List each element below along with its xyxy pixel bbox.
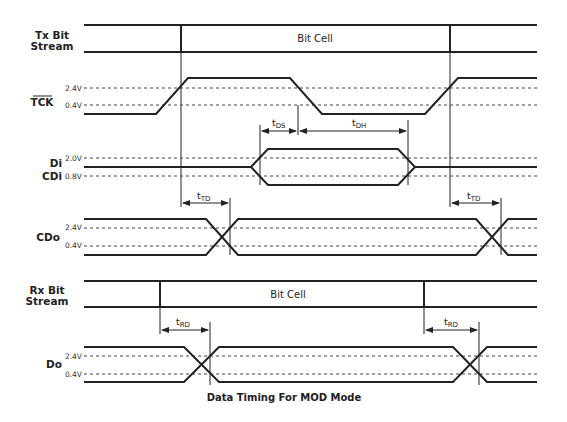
tdh-label: tDH [352, 117, 366, 130]
cdi-label: CDi [42, 170, 62, 182]
tds-label: tDS [272, 117, 286, 130]
do-label: Do [46, 358, 62, 370]
di-cdi-signal: Di CDi 2.0V 0.8V [42, 149, 537, 185]
cdo-level-high: 2.4V [65, 223, 83, 232]
di-level-low: 0.8V [65, 172, 83, 181]
do-signal: Do 2.4V 0.4V [46, 347, 537, 382]
tck-level-low: 0.4V [65, 101, 83, 110]
tck-level-high: 2.4V [65, 84, 83, 93]
cdo-signal: CDo 2.4V 0.4V [36, 219, 537, 255]
di-level-high: 2.0V [65, 154, 83, 163]
ttd2-label: tTD [467, 190, 480, 203]
do-level-low: 0.4V [65, 370, 83, 379]
trd2-label: tRD [444, 316, 458, 329]
timing-diagram: Tx Bit Stream Bit Cell TCK 2.4V 0.4V tDS… [0, 0, 567, 422]
trd1-label: tRD [176, 316, 190, 329]
rx-label-line2: Stream [26, 295, 69, 307]
ttd-annotations: tTD tTD [183, 190, 501, 255]
do-level-high: 2.4V [65, 352, 83, 361]
tx-label-line2: Stream [31, 40, 74, 52]
ttd1-label: tTD [197, 190, 210, 203]
rx-bit-cell-label: Bit Cell [270, 289, 305, 300]
diagram-caption: Data Timing For MOD Mode [207, 392, 362, 403]
rx-bit-stream-signal: Rx Bit Stream Bit Cell [26, 281, 537, 307]
tx-bit-cell-label: Bit Cell [297, 33, 332, 44]
tx-bit-stream-signal: Tx Bit Stream Bit Cell [31, 25, 537, 52]
tck-label: TCK [30, 96, 54, 108]
di-label: Di [50, 157, 62, 169]
tds-tdh-annotation: tDS tDH [260, 105, 408, 185]
tck-signal: TCK 2.4V 0.4V [30, 78, 537, 114]
cdo-label: CDo [36, 231, 60, 243]
cdo-level-low: 0.4V [65, 241, 83, 250]
